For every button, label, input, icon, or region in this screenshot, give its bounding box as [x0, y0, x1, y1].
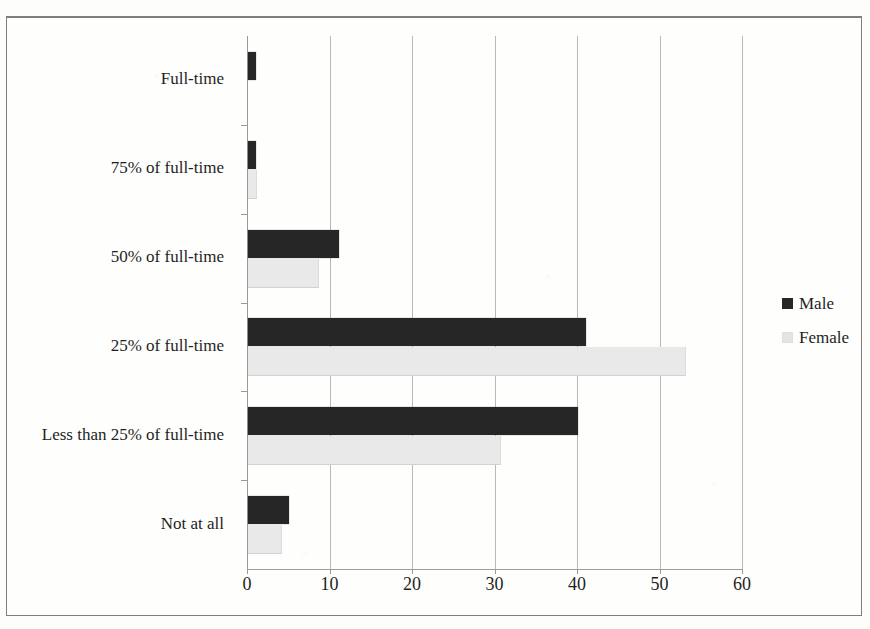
category-label-5: Not at all [0, 514, 238, 534]
bar-female-2 [248, 259, 319, 288]
category-tick-4 [241, 391, 247, 392]
category-label-1: 75% of full-time [0, 158, 238, 178]
plot-area [247, 36, 742, 569]
legend-item-male[interactable]: Male [782, 286, 849, 320]
bar-female-4 [248, 436, 501, 465]
bar-female-5 [248, 525, 282, 554]
category-label-2: 50% of full-time [0, 247, 238, 267]
scanned-page: Full-time75% of full-time50% of full-tim… [0, 0, 870, 629]
bar-male-2 [248, 230, 339, 258]
bar-male-5 [248, 496, 289, 524]
gridline-60 [742, 36, 743, 569]
value-tick-label-50: 50 [640, 574, 680, 595]
value-tick-label-10: 10 [310, 574, 350, 595]
gridline-30 [495, 36, 496, 569]
bar-male-0 [248, 52, 256, 80]
bar-female-3 [248, 347, 686, 376]
value-tick-label-20: 20 [392, 574, 432, 595]
legend-item-female[interactable]: Female [782, 320, 849, 354]
gridline-50 [660, 36, 661, 569]
legend-label-male: Male [799, 295, 834, 312]
bar-female-1 [248, 170, 257, 199]
gridline-20 [412, 36, 413, 569]
legend-swatch-icon-male [782, 298, 793, 309]
gridline-10 [330, 36, 331, 569]
horizontal-bar-chart: Full-time75% of full-time50% of full-tim… [0, 0, 870, 629]
legend-label-female: Female [799, 329, 849, 346]
gridline-40 [577, 36, 578, 569]
bar-male-1 [248, 141, 256, 169]
value-tick-label-0: 0 [227, 574, 267, 595]
category-tick-2 [241, 214, 247, 215]
value-axis-line [247, 36, 248, 569]
category-tick-5 [241, 480, 247, 481]
legend-swatch-icon-female [782, 332, 793, 343]
value-tick-label-60: 60 [722, 574, 762, 595]
category-tick-3 [241, 303, 247, 304]
bar-male-3 [248, 318, 586, 346]
category-tick-1 [241, 125, 247, 126]
category-label-0: Full-time [0, 69, 238, 89]
value-tick-label-30: 30 [475, 574, 515, 595]
chart-legend: MaleFemale [782, 286, 849, 354]
category-label-3: 25% of full-time [0, 336, 238, 356]
value-tick-label-40: 40 [557, 574, 597, 595]
category-label-4: Less than 25% of full-time [0, 425, 238, 445]
bar-male-4 [248, 407, 578, 435]
